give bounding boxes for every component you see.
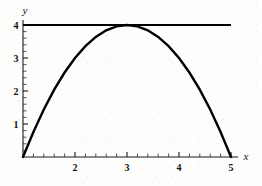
x-axis-label: x bbox=[243, 150, 249, 162]
parabola-plot: 2 3 4 5 x bbox=[0, 0, 262, 186]
x-tick-label-4: 4 bbox=[177, 162, 182, 173]
x-axis-group: 2 3 4 5 x bbox=[23, 150, 249, 173]
x-tick-label-5: 5 bbox=[229, 162, 234, 173]
y-axis-group: 1 2 3 4 y bbox=[14, 4, 29, 157]
y-axis-label: y bbox=[22, 4, 28, 16]
x-tick-label-2: 2 bbox=[73, 162, 78, 173]
y-axis-major-ticks bbox=[23, 25, 28, 124]
y-tick-label-4: 4 bbox=[14, 20, 19, 31]
figure-container: 2 3 4 5 x bbox=[0, 0, 262, 186]
y-tick-label-2: 2 bbox=[14, 86, 19, 97]
y-tick-label-3: 3 bbox=[14, 53, 19, 64]
x-tick-label-3: 3 bbox=[125, 162, 130, 173]
x-axis-major-ticks bbox=[75, 152, 231, 157]
y-tick-label-1: 1 bbox=[14, 119, 19, 130]
parabola-series bbox=[23, 25, 231, 157]
